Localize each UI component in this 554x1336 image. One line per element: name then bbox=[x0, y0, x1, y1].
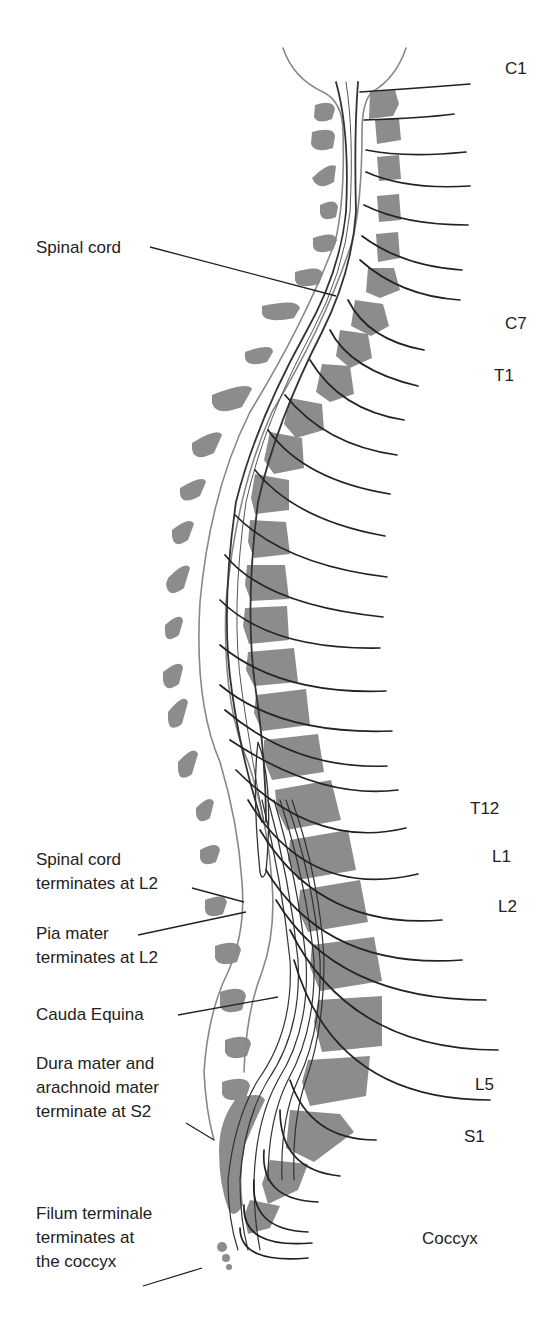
level-label-c1: C1 bbox=[505, 57, 527, 81]
label-line: Spinal cord bbox=[36, 848, 158, 872]
spinal-cord-outlines bbox=[199, 48, 406, 1250]
label-line: Filum terminale bbox=[36, 1202, 152, 1226]
level-label-coccyx: Coccyx bbox=[422, 1227, 478, 1251]
level-label-l5: L5 bbox=[475, 1073, 494, 1097]
label-dura-mater: Dura mater and arachnoid mater terminate… bbox=[36, 1052, 159, 1124]
label-pia-mater: Pia mater terminates at L2 bbox=[36, 922, 158, 970]
label-line: terminates at L2 bbox=[36, 946, 158, 970]
label-line: Pia mater bbox=[36, 922, 158, 946]
label-line: arachnoid mater bbox=[36, 1076, 159, 1100]
label-filum-terminale: Filum terminale terminates at the coccyx bbox=[36, 1202, 152, 1274]
level-label-s1: S1 bbox=[464, 1125, 485, 1149]
level-label-t1: T1 bbox=[494, 364, 514, 388]
label-cauda-equina: Cauda Equina bbox=[36, 1003, 144, 1027]
vertebral-bodies bbox=[243, 90, 401, 1234]
label-line: terminates at L2 bbox=[36, 872, 158, 896]
label-line: Dura mater and bbox=[36, 1052, 159, 1076]
level-label-c7: C7 bbox=[505, 312, 527, 336]
label-line: Spinal cord bbox=[36, 236, 121, 260]
label-line: the coccyx bbox=[36, 1250, 152, 1274]
label-line: terminates at bbox=[36, 1226, 152, 1250]
figure-caption-clip bbox=[0, 1322, 554, 1336]
label-spinal-cord: Spinal cord bbox=[36, 236, 121, 260]
level-label-t12: T12 bbox=[470, 797, 499, 821]
label-spinal-cord-terminates: Spinal cord terminates at L2 bbox=[36, 848, 158, 896]
level-label-l2: L2 bbox=[498, 895, 517, 919]
label-line: Cauda Equina bbox=[36, 1003, 144, 1027]
level-label-l1: L1 bbox=[492, 845, 511, 869]
label-line: terminate at S2 bbox=[36, 1100, 159, 1124]
